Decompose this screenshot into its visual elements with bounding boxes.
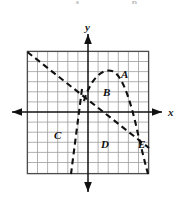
region-label-a: A: [121, 68, 128, 80]
region-label-e: E: [138, 138, 145, 150]
cut-off-label-b: B: [131, 0, 137, 4]
y-axis-label: y: [85, 21, 90, 33]
region-label-d: D: [101, 138, 109, 150]
cut-off-label-a: A: [74, 0, 80, 4]
region-label-c: C: [54, 129, 61, 141]
x-axis-label: x: [168, 106, 174, 118]
region-label-b: B: [103, 86, 110, 98]
coordinate-grid-figure: [0, 0, 186, 201]
